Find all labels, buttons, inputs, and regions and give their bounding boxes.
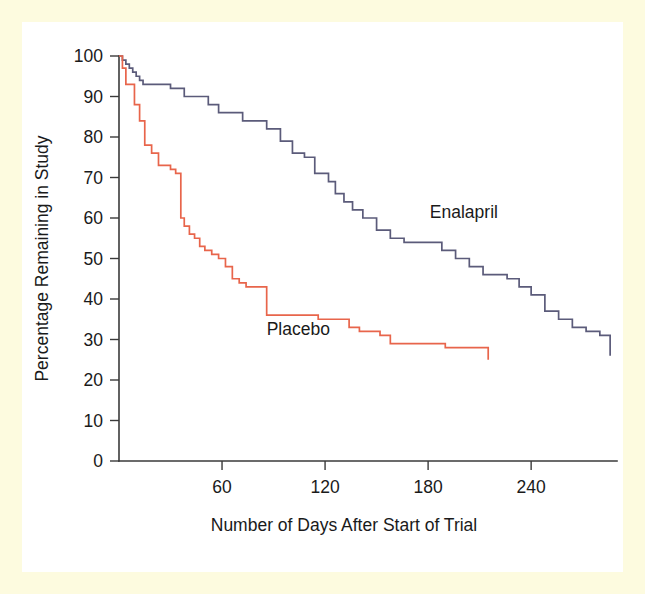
- y-tick-label: 40: [84, 289, 104, 309]
- y-tick-label: 100: [74, 46, 103, 66]
- survival-chart: 010203040506070809010060120180240Number …: [22, 22, 623, 572]
- series-label-placebo: Placebo: [267, 319, 330, 339]
- y-tick-label: 70: [84, 168, 104, 188]
- series-line-enalapril: [119, 56, 610, 356]
- y-tick-label: 60: [84, 208, 104, 228]
- x-tick-label: 180: [414, 477, 443, 497]
- x-axis-title: Number of Days After Start of Trial: [211, 515, 477, 535]
- x-tick-label: 240: [517, 477, 546, 497]
- y-tick-label: 10: [84, 411, 104, 431]
- y-tick-label: 80: [84, 127, 104, 147]
- series-group: [119, 56, 610, 360]
- series-label-enalapril: Enalapril: [430, 202, 498, 222]
- axes-group: 010203040506070809010060120180240Number …: [32, 46, 617, 535]
- series-labels-group: EnalaprilPlacebo: [267, 202, 498, 339]
- y-tick-label: 30: [84, 330, 104, 350]
- x-tick-label: 120: [310, 477, 339, 497]
- y-tick-label: 20: [84, 370, 104, 390]
- x-tick-label: 60: [212, 477, 232, 497]
- figure-plate: 010203040506070809010060120180240Number …: [22, 22, 623, 572]
- y-tick-label: 0: [93, 451, 103, 471]
- figure-frame: 010203040506070809010060120180240Number …: [0, 0, 645, 594]
- y-tick-label: 90: [84, 87, 104, 107]
- y-axis-title: Percentage Remaining in Study: [32, 135, 52, 381]
- y-tick-label: 50: [84, 249, 104, 269]
